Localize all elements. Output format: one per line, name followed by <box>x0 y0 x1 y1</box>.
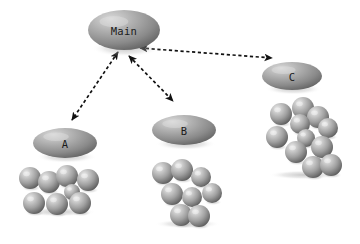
sphere <box>318 118 338 138</box>
sphere-highlight <box>315 140 322 145</box>
sphere <box>46 193 68 215</box>
sphere-highlight <box>300 133 305 137</box>
sphere-highlight <box>306 160 313 165</box>
sphere-highlight <box>322 122 328 126</box>
sphere-highlight <box>27 196 34 201</box>
sphere-highlight <box>274 107 281 112</box>
node-label: Main <box>111 25 138 37</box>
connectors-layer <box>72 48 272 120</box>
sphere-highlight <box>324 158 331 163</box>
sphere-highlight <box>270 130 277 135</box>
node-a[interactable]: A <box>33 128 97 163</box>
sphere <box>266 126 288 148</box>
sphere <box>77 169 99 191</box>
connector-arrow[interactable] <box>129 56 173 101</box>
sphere-highlight <box>206 187 212 191</box>
sphere-highlight <box>195 171 201 175</box>
sphere-highlight <box>60 169 67 174</box>
node-label: B <box>181 125 188 137</box>
node-main[interactable]: Main <box>88 10 160 57</box>
sphere-highlight <box>296 101 303 106</box>
sphere-cluster <box>266 97 342 180</box>
sphere-highlight <box>165 187 172 192</box>
sphere <box>152 162 174 184</box>
diagram-canvas: MainABC <box>0 0 360 244</box>
sphere-highlight <box>192 209 199 214</box>
sphere-highlight <box>186 191 192 195</box>
sphere <box>320 154 342 176</box>
node-label: C <box>289 71 296 83</box>
sphere <box>285 141 307 163</box>
sphere-highlight <box>175 163 182 168</box>
sphere <box>69 192 91 214</box>
sphere-cluster <box>19 165 99 217</box>
node-c[interactable]: C <box>262 62 322 95</box>
sphere-highlight <box>294 118 300 122</box>
sphere <box>23 192 45 214</box>
sphere-highlight <box>23 171 30 176</box>
connector-arrow[interactable] <box>140 48 272 58</box>
sphere-highlight <box>174 208 181 213</box>
sphere <box>182 187 202 207</box>
sphere-highlight <box>311 110 318 115</box>
node-label: A <box>62 138 69 150</box>
sphere-highlight <box>42 175 49 180</box>
sphere-highlight <box>156 166 163 171</box>
sphere <box>19 167 41 189</box>
sphere <box>270 103 292 125</box>
sphere <box>56 165 78 187</box>
sphere <box>171 159 193 181</box>
sphere-highlight <box>289 145 296 150</box>
sphere-cluster <box>152 159 222 229</box>
sphere-highlight <box>73 196 80 201</box>
connector-arrow[interactable] <box>72 52 118 120</box>
sphere <box>202 183 222 203</box>
node-b[interactable]: B <box>152 115 216 150</box>
sphere-highlight <box>50 197 57 202</box>
diagram-svg: MainABC <box>0 0 360 244</box>
sphere <box>161 183 183 205</box>
sphere-highlight <box>67 187 72 191</box>
sphere-highlight <box>81 173 88 178</box>
sphere <box>188 205 210 227</box>
